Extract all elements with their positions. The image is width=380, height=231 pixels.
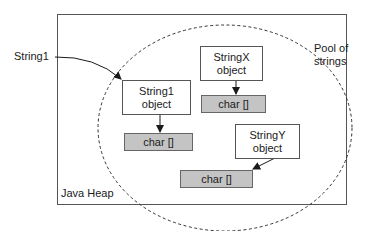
stringy-object-box: StringY object xyxy=(235,124,300,159)
stringx-object-box: StringX object xyxy=(200,46,263,81)
stringx-char-array: char [] xyxy=(201,95,266,113)
string1-reference-label: String1 xyxy=(14,50,49,63)
stringy-to-array-arrow xyxy=(253,158,275,169)
diagram-canvas xyxy=(0,0,380,231)
string1-object-box: String1 object xyxy=(122,80,191,115)
stringy-object-name: StringY xyxy=(249,129,285,142)
stringx-char-array-label: char [] xyxy=(218,98,249,111)
string1-char-array: char [] xyxy=(124,133,193,151)
stringy-char-array: char [] xyxy=(180,170,253,188)
stringy-char-array-label: char [] xyxy=(201,173,232,186)
string1-reference-arrow xyxy=(55,57,121,79)
stringx-object-kind: object xyxy=(217,64,246,77)
string1-object-name: String1 xyxy=(139,85,174,98)
string1-object-kind: object xyxy=(142,98,171,111)
string1-char-array-label: char [] xyxy=(143,136,174,149)
stringx-object-name: StringX xyxy=(213,51,249,64)
pool-label-line2: strings xyxy=(314,55,348,68)
pool-label-line1: Pool of xyxy=(314,42,348,55)
pool-label: Pool of strings xyxy=(314,42,348,68)
stringy-object-kind: object xyxy=(253,142,282,155)
java-heap-label: Java Heap xyxy=(61,187,114,200)
